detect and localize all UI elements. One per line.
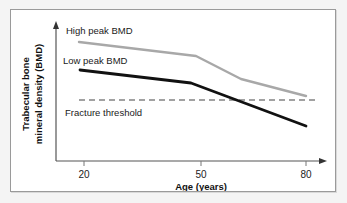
x-tick-label-50: 50 — [195, 169, 207, 180]
chart-screenshot: 20 50 80 Age (years) Trabecular bone min… — [0, 0, 347, 203]
annotation-high-peak-bmd: High peak BMD — [66, 25, 133, 36]
y-axis — [53, 21, 59, 161]
figure-frame: 20 50 80 Age (years) Trabecular bone min… — [10, 9, 336, 192]
annotation-low-peak-bmd: Low peak BMD — [63, 55, 128, 66]
bmd-vs-age-line-chart: 20 50 80 Age (years) Trabecular bone min… — [11, 10, 335, 191]
x-tick-label-80: 80 — [300, 169, 312, 180]
y-axis-title-line2: mineral density (BMD) — [33, 44, 44, 144]
y-axis-title-line1: Trabecular bone — [20, 57, 31, 130]
x-tick-marks — [84, 161, 306, 166]
x-tick-label-20: 20 — [78, 169, 90, 180]
x-axis — [56, 158, 327, 164]
y-axis-arrow-icon — [53, 21, 59, 29]
x-axis-title: Age (years) — [175, 181, 227, 191]
annotation-fracture-threshold: Fracture threshold — [65, 107, 142, 118]
series-line-high-peak-bmd — [79, 42, 306, 96]
x-axis-arrow-icon — [319, 158, 327, 164]
